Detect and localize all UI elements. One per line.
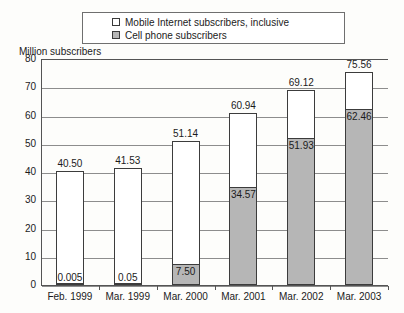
bar-segment-mobile-internet [56, 171, 84, 285]
bar-segment-mobile-internet [114, 168, 142, 285]
legend-swatch-gray-icon [112, 31, 120, 39]
bar-group [172, 59, 200, 285]
bar-segment-cell-phone [114, 283, 142, 285]
bar-value-label-cell-phone: 0.05 [106, 272, 150, 283]
bar-segment-cell-phone [287, 138, 315, 285]
bar-group [114, 59, 142, 285]
bar-segment-cell-phone [345, 109, 373, 285]
x-tick-mark [330, 286, 331, 290]
x-tick-label: Mar. 2001 [214, 291, 272, 303]
chart-legend: Mobile Internet subscribers, inclusive C… [82, 12, 345, 44]
bar-value-label-total: 60.94 [221, 100, 265, 111]
bar-chart-figure: Mobile Internet subscribers, inclusive C… [0, 0, 404, 313]
legend-swatch-white-icon [112, 18, 120, 26]
bar-segment-cell-phone [56, 283, 84, 285]
bar-value-label-cell-phone: 7.50 [164, 266, 208, 277]
bar-value-label-cell-phone: 62.46 [337, 111, 381, 122]
x-tick-label: Mar. 2002 [272, 291, 330, 303]
bar-value-label-total: 75.56 [337, 59, 381, 70]
y-tick-label: 70 [2, 82, 36, 92]
bar-segment-cell-phone [229, 187, 257, 285]
bar-value-label-cell-phone: 0.005 [48, 272, 92, 283]
y-tick-label: 0 [2, 280, 36, 290]
y-tick-label: 10 [2, 252, 36, 262]
x-tick-label: Mar. 2003 [330, 291, 388, 303]
legend-label-mobile-internet: Mobile Internet subscribers, inclusive [125, 17, 289, 28]
legend-item-cell-phone: Cell phone subscribers [112, 28, 227, 42]
y-tick-label: 40 [2, 167, 36, 177]
bars-layer [41, 59, 388, 285]
x-tick-mark [215, 286, 216, 290]
x-tick-label: Mar. 1999 [99, 291, 157, 303]
y-tick-label: 80 [2, 54, 36, 64]
bar-value-label-cell-phone: 34.57 [221, 189, 265, 200]
x-tick-label: Feb. 1999 [41, 291, 99, 303]
x-tick-mark [388, 286, 389, 290]
bar-group [345, 59, 373, 285]
x-tick-label: Mar. 2000 [157, 291, 215, 303]
y-tick-label: 20 [2, 224, 36, 234]
bar-value-label-cell-phone: 51.93 [279, 140, 323, 151]
bar-group [56, 59, 84, 285]
bar-value-label-total: 40.50 [48, 158, 92, 169]
y-tick-label: 30 [2, 195, 36, 205]
x-axis-tick-labels: Feb. 1999Mar. 1999Mar. 2000Mar. 2001Mar.… [41, 291, 388, 307]
y-tick-label: 50 [2, 139, 36, 149]
bar-group [287, 59, 315, 285]
y-axis-tick-labels: 80706050403020100 [0, 59, 36, 286]
x-tick-mark [272, 286, 273, 290]
x-tick-mark [99, 286, 100, 290]
x-tick-mark [157, 286, 158, 290]
y-tick-label: 60 [2, 111, 36, 121]
bar-group [229, 59, 257, 285]
bar-value-label-total: 51.14 [164, 128, 208, 139]
bar-value-label-total: 69.12 [279, 77, 323, 88]
bar-value-label-total: 41.53 [106, 155, 150, 166]
legend-item-mobile-internet: Mobile Internet subscribers, inclusive [112, 15, 289, 29]
legend-label-cell-phone: Cell phone subscribers [125, 30, 227, 41]
